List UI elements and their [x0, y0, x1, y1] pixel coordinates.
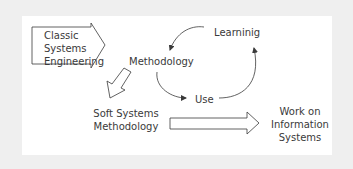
node-work-on-information-systems: Work on Information Systems: [267, 105, 333, 144]
node-methodology: Methodology: [129, 55, 194, 68]
cycle-arrow-use-to-learning: [219, 48, 256, 98]
node-learning: Learninig: [214, 26, 260, 39]
cycle-arrow-learning-to-methodology: [170, 27, 204, 50]
cycle-arrow-methodology-to-use: [157, 72, 186, 98]
node-classic-systems-engineering: Classic Systems Engineering: [44, 29, 104, 68]
node-soft-systems-methodology: Soft Systems Methodology: [88, 107, 164, 133]
block-arrow-ssm-to-work: [170, 112, 259, 134]
block-arrow-methodology-to-ssm: [107, 68, 131, 98]
node-use: Use: [195, 93, 214, 106]
